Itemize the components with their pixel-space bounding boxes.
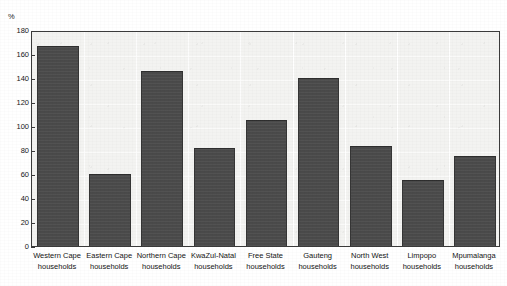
bar-1 (37, 46, 79, 246)
bar-6 (298, 78, 340, 246)
x-tick-label-line1: Northern Cape (135, 251, 187, 262)
x-tick-label-line1: Western Cape (31, 251, 83, 262)
y-tick-label: 40 (5, 195, 29, 203)
x-tick-label-2: Eastern Capehouseholds (83, 251, 135, 272)
gridline-horizontal (32, 104, 499, 105)
gridline-vertical (345, 32, 346, 246)
y-tick-label: 0 (5, 243, 29, 251)
gridline-vertical (240, 32, 241, 246)
y-tick-label: 180 (5, 27, 29, 35)
x-tick-label-8: Limpopohouseholds (396, 251, 448, 272)
gridline-vertical (136, 32, 137, 246)
x-tick-label-line2: households (292, 262, 344, 273)
x-tick-label-line1: Free State (239, 251, 291, 262)
y-tick-mark (31, 151, 35, 152)
gridline-vertical (397, 32, 398, 246)
bar-7 (350, 146, 392, 246)
bar-8 (402, 180, 444, 246)
x-tick-label-line1: Gauteng (292, 251, 344, 262)
bar-4 (194, 148, 236, 246)
x-tick-label-line1: Eastern Cape (83, 251, 135, 262)
bar-5 (246, 120, 288, 246)
x-tick-label-line2: households (239, 262, 291, 273)
chart-title-sliver (0, 0, 507, 5)
y-tick-label: 80 (5, 147, 29, 155)
x-tick-label-line2: households (135, 262, 187, 273)
x-tick-label-3: Northern Capehouseholds (135, 251, 187, 272)
y-tick-label: 60 (5, 171, 29, 179)
x-tick-label-line2: households (31, 262, 83, 273)
x-tick-label-line2: households (448, 262, 500, 273)
x-tick-label-7: North Westhouseholds (344, 251, 396, 272)
bar-9 (454, 156, 496, 246)
x-tick-label-line2: households (344, 262, 396, 273)
y-tick-mark (31, 199, 35, 200)
y-tick-mark (31, 55, 35, 56)
y-axis: 180160140120100806040200 (0, 0, 29, 286)
y-tick-mark (31, 223, 35, 224)
x-tick-label-line2: households (187, 262, 239, 273)
gridline-horizontal (32, 56, 499, 57)
bar-3 (141, 71, 183, 246)
x-tick-label-line1: North West (344, 251, 396, 262)
y-tick-label: 160 (5, 51, 29, 59)
gridline-vertical (188, 32, 189, 246)
x-tick-label-5: Free Statehouseholds (239, 251, 291, 272)
x-tick-label-1: Western Capehouseholds (31, 251, 83, 272)
gridline-horizontal (32, 80, 499, 81)
x-tick-label-line2: households (396, 262, 448, 273)
gridline-vertical (293, 32, 294, 246)
y-tick-mark (31, 103, 35, 104)
plot-area (31, 31, 500, 247)
y-tick-label: 120 (5, 99, 29, 107)
x-tick-label-9: Mpumalangahouseholds (448, 251, 500, 272)
y-tick-mark (31, 127, 35, 128)
plot-inner (32, 32, 499, 246)
bar-2 (89, 174, 131, 246)
x-tick-label-4: KwaZul-Natalhouseholds (187, 251, 239, 272)
y-tick-label: 100 (5, 123, 29, 131)
x-tick-label-6: Gautenghouseholds (292, 251, 344, 272)
x-tick-label-line1: KwaZul-Natal (187, 251, 239, 262)
gridline-vertical (84, 32, 85, 246)
x-tick-label-line2: households (83, 262, 135, 273)
x-tick-label-line1: Limpopo (396, 251, 448, 262)
gridline-vertical (449, 32, 450, 246)
y-tick-label: 20 (5, 219, 29, 227)
y-tick-mark (31, 247, 35, 248)
y-tick-mark (31, 175, 35, 176)
bar-chart: % 180160140120100806040200 Western Capeh… (0, 0, 507, 286)
y-tick-mark (31, 79, 35, 80)
x-tick-label-line1: Mpumalanga (448, 251, 500, 262)
y-tick-label: 140 (5, 75, 29, 83)
